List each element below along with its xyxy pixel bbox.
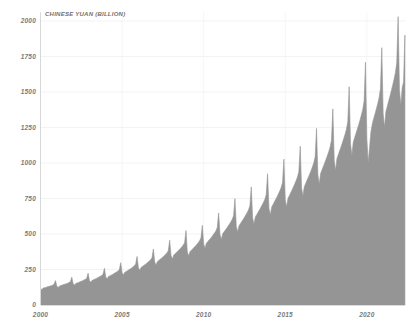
y-axis-tick-label: 1250 (4, 124, 36, 131)
y-axis-tick-label: 2000 (4, 18, 36, 25)
y-axis-tick-label: 0 (4, 302, 36, 309)
area-series (41, 17, 405, 305)
y-axis-tick-label: 1000 (4, 160, 36, 167)
y-axis-tick-label: 750 (4, 195, 36, 202)
y-axis-tick-label: 1500 (4, 89, 36, 96)
y-axis: 025050075010001250150017502000 (0, 0, 36, 331)
chart-container: 025050075010001250150017502000 200020052… (0, 0, 417, 331)
x-axis-tick-label: 2020 (359, 312, 374, 319)
x-axis-tick-label: 2000 (33, 312, 48, 319)
x-axis-tick-label: 2010 (196, 312, 211, 319)
y-axis-tick-label: 250 (4, 266, 36, 273)
x-axis-tick-label: 2005 (114, 312, 129, 319)
y-axis-tick-label: 1750 (4, 53, 36, 60)
y-axis-tick-label: 500 (4, 231, 36, 238)
x-axis-tick-label: 2015 (278, 312, 293, 319)
area-path (41, 17, 405, 305)
area-chart-svg (0, 0, 417, 331)
chart-title: CHINESE YUAN (BILLION) (45, 11, 125, 17)
